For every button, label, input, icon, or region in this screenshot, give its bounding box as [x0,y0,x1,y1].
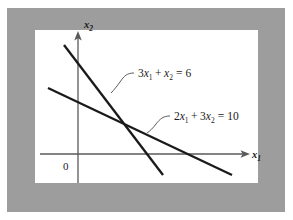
x-axis-label-subscript: 1 [257,154,261,163]
eq2-plus: + [191,110,198,122]
origin-label: 0 [63,160,69,172]
eq1-var2-sub: 2 [169,73,173,82]
y-axis-label-subscript: 2 [88,24,93,33]
eq1-equals: = [176,67,183,79]
figure-root: x2 x1 0 3x1+x2=6 2x1+3x2=10 [0,0,293,220]
eq1-rhs: 6 [185,67,191,79]
eq2-equals: = [218,110,225,122]
eq2-var2-sub: 2 [211,116,215,125]
eq2-var1-sub: 1 [185,116,189,125]
figure-canvas: x2 x1 0 3x1+x2=6 2x1+3x2=10 [0,0,293,220]
eq1-plus: + [155,67,162,79]
eq1-var1-sub: 1 [149,73,153,82]
eq2-rhs: 10 [227,110,239,122]
